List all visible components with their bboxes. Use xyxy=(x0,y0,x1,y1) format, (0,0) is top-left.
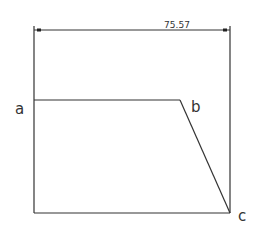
dimension-arrow-right xyxy=(223,29,227,32)
point-label-c: c xyxy=(238,207,246,225)
dimension-arrow-left xyxy=(37,29,41,32)
edge-b-c xyxy=(180,100,230,213)
diagram-canvas: 75.57 a b c xyxy=(0,0,261,234)
dimension-label: 75.57 xyxy=(164,20,190,30)
point-label-b: b xyxy=(191,98,201,116)
point-label-a: a xyxy=(15,100,24,118)
